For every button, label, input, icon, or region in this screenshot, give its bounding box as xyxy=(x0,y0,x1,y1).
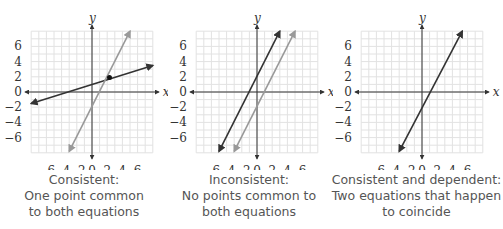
caption-title: Consistent: xyxy=(0,172,168,188)
x-axis-label: x xyxy=(493,85,500,99)
y-tick-label: −6 xyxy=(334,131,352,145)
caption-line: to coincide xyxy=(330,204,503,220)
y-tick-label: −4 xyxy=(334,115,352,129)
x-tick-label: −2 xyxy=(398,164,416,170)
caption-line: Two equations that happen xyxy=(330,188,503,204)
x-tick-label: 0 xyxy=(253,164,261,170)
x-tick-label: 6 xyxy=(299,164,307,170)
caption-line: No points common to xyxy=(165,188,333,204)
y-axis-label: y xyxy=(88,11,96,25)
intersection-point xyxy=(107,75,112,80)
y-axis-label: y xyxy=(418,11,426,25)
x-tick-label: 4 xyxy=(119,164,127,170)
graph-consistent: xy6420−2−4−6−6−4−20246 xyxy=(0,0,168,170)
y-tick-label: −4 xyxy=(4,115,22,129)
caption-line: One point common xyxy=(0,188,168,204)
y-tick-label: 0 xyxy=(344,85,352,99)
y-tick-label: −2 xyxy=(169,100,187,114)
x-tick-label: 4 xyxy=(284,164,292,170)
y-tick-label: −6 xyxy=(4,131,22,145)
x-tick-label: 6 xyxy=(464,164,472,170)
x-tick-label: 0 xyxy=(418,164,426,170)
caption-line: to both equations xyxy=(0,204,168,220)
panel-consistent: xy6420−2−4−6−6−4−20246 Consistent: One p… xyxy=(0,0,168,229)
graph-inconsistent: xy6420−2−4−6−6−4−20246 xyxy=(165,0,333,170)
y-tick-label: 4 xyxy=(179,55,187,69)
y-tick-label: 4 xyxy=(14,55,22,69)
panel-inconsistent: xy6420−2−4−6−6−4−20246 Inconsistent: No … xyxy=(165,0,333,229)
caption-line: both equations xyxy=(165,204,333,220)
x-tick-label: 2 xyxy=(268,164,276,170)
x-tick-label: 6 xyxy=(134,164,142,170)
caption-title: Inconsistent: xyxy=(165,172,333,188)
x-tick-label: −2 xyxy=(68,164,86,170)
y-tick-label: 6 xyxy=(14,39,22,53)
caption-consistent: Consistent: One point common to both equ… xyxy=(0,172,168,220)
caption-dependent: Consistent and dependent: Two equations … xyxy=(330,172,503,220)
y-axis-label: y xyxy=(253,11,261,25)
y-tick-label: 6 xyxy=(344,39,352,53)
y-tick-label: −6 xyxy=(169,131,187,145)
caption-title: Consistent and dependent: xyxy=(330,172,503,188)
x-tick-label: 0 xyxy=(88,164,96,170)
x-tick-label: 2 xyxy=(433,164,441,170)
y-tick-label: 4 xyxy=(344,55,352,69)
graph-dependent: xy6420−2−4−6−6−4−20246 xyxy=(330,0,503,170)
x-tick-label: −2 xyxy=(233,164,251,170)
y-tick-label: −2 xyxy=(334,100,352,114)
panel-dependent: xy6420−2−4−6−6−4−20246 Consistent and de… xyxy=(330,0,498,229)
x-tick-label: 2 xyxy=(103,164,111,170)
y-tick-label: 0 xyxy=(179,85,187,99)
y-tick-label: 2 xyxy=(179,70,187,84)
y-tick-label: 2 xyxy=(14,70,22,84)
caption-inconsistent: Inconsistent: No points common to both e… xyxy=(165,172,333,220)
y-tick-label: 0 xyxy=(14,85,22,99)
y-tick-label: 6 xyxy=(179,39,187,53)
y-tick-label: 2 xyxy=(344,70,352,84)
y-tick-label: −4 xyxy=(169,115,187,129)
x-tick-label: 4 xyxy=(449,164,457,170)
y-tick-label: −2 xyxy=(4,100,22,114)
